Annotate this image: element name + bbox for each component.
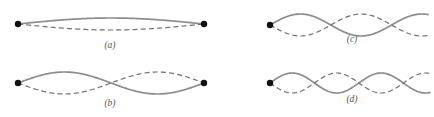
node-dot (267, 22, 273, 28)
panel-c-endpoint-dots (267, 22, 273, 28)
panel-d-solid-curve (270, 73, 430, 93)
panel-b-label: (b) (104, 98, 115, 109)
panel-c: (c) (267, 14, 428, 45)
panel-d: (d) (267, 73, 430, 105)
panel-d-endpoint-dots (267, 80, 273, 86)
node-dot (15, 80, 21, 86)
panel-d-label: (d) (346, 94, 357, 105)
panel-b: (b) (15, 72, 207, 109)
panel-b-solid-curve (18, 72, 204, 94)
panel-a-dashed-curve (18, 24, 204, 30)
panel-c-label: (c) (347, 34, 358, 45)
panel-a: (a) (15, 18, 207, 51)
node-dot (15, 21, 21, 27)
standing-wave-figure: (a) (b) (c) (d) (0, 0, 434, 117)
node-dot (201, 21, 207, 27)
panel-c-solid-curve (270, 14, 428, 36)
panel-c-dashed-curve (270, 14, 428, 36)
panel-d-dashed-curve (270, 73, 430, 93)
panel-a-label: (a) (104, 40, 115, 51)
panel-a-solid-curve (18, 18, 204, 24)
node-dot (201, 80, 207, 86)
node-dot (267, 80, 273, 86)
